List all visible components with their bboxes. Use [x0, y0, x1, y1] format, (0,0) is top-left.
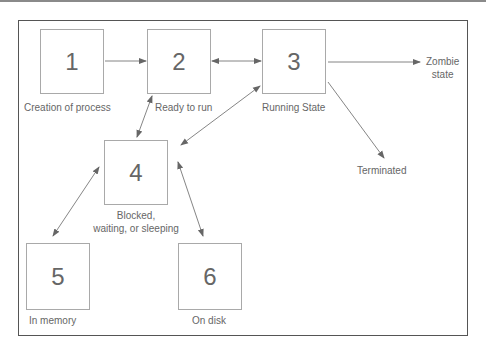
state-label-ready: Ready to run [155, 101, 212, 114]
state-box-3: 3 [262, 29, 326, 94]
state-number: 2 [172, 48, 185, 76]
state-number: 1 [65, 48, 78, 76]
terminal-terminated: Terminated [357, 164, 406, 177]
state-box-5: 5 [26, 243, 90, 310]
state-number: 6 [203, 263, 216, 291]
state-box-4: 4 [104, 140, 168, 205]
state-label-creation: Creation of process [24, 101, 111, 114]
state-number: 4 [129, 159, 142, 187]
arrow-3-to-4 [181, 86, 260, 145]
blocked-line-2: waiting, or sleeping [88, 222, 184, 235]
state-box-1: 1 [40, 29, 104, 94]
blocked-line-1: Blocked, [88, 209, 184, 222]
arrow-3-to-terminated [328, 82, 384, 158]
state-box-6: 6 [178, 243, 242, 310]
terminal-zombie: Zombie state [426, 55, 459, 81]
arrow-2-to-4 [137, 96, 152, 137]
zombie-line-2: state [426, 68, 459, 81]
state-label-in-memory: In memory [29, 314, 76, 327]
state-number: 5 [51, 263, 64, 291]
zombie-line-1: Zombie [426, 55, 459, 68]
state-number: 3 [287, 48, 300, 76]
state-label-on-disk: On disk [192, 314, 226, 327]
state-label-running: Running State [262, 101, 325, 114]
state-label-blocked: Blocked, waiting, or sleeping [88, 209, 184, 235]
state-box-2: 2 [147, 29, 211, 94]
